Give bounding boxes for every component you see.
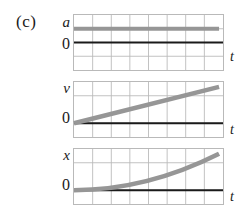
panel-acceleration: a 0 t [0, 10, 250, 74]
kinematics-figure: (c) a 0 [0, 0, 250, 214]
axis-label-v: v [50, 80, 70, 97]
panel-velocity: v 0 t [0, 77, 250, 141]
time-axis-label-v: t [230, 122, 234, 138]
plot-area-position [73, 148, 224, 205]
zero-label-x: 0 [50, 176, 70, 194]
acceleration-chart-svg [74, 15, 223, 70]
plot-area-velocity [73, 81, 224, 138]
zero-label-a: 0 [50, 35, 70, 53]
velocity-chart-svg [74, 82, 223, 137]
gridlines-vertical [93, 149, 205, 204]
time-axis-label-a: t [230, 49, 234, 65]
axis-label-a: a [50, 14, 70, 31]
axis-label-x: x [50, 147, 70, 164]
gridlines-vertical [93, 82, 205, 137]
plot-area-acceleration [73, 14, 224, 71]
velocity-curve [74, 87, 219, 123]
position-chart-svg [74, 149, 223, 204]
panel-position: x 0 t [0, 144, 250, 208]
time-axis-label-x: t [230, 189, 234, 205]
zero-label-v: 0 [50, 109, 70, 127]
position-curve [74, 154, 219, 190]
